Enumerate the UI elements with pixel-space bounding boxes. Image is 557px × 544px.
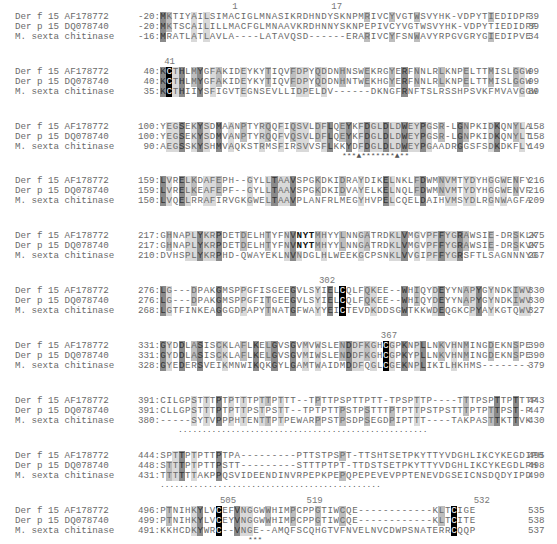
start-position: -16: [120, 32, 160, 42]
start-position: 150: [120, 196, 160, 206]
end-position: 327 [528, 306, 545, 316]
end-position: 209 [528, 196, 545, 206]
start-position: 35: [120, 87, 160, 97]
sequence-residues: LGTFINKEAGGGDPAPYTNATGFWAYYEICTEVDKDDSGW… [160, 306, 531, 316]
conservation-marks: ........................................… [178, 425, 428, 434]
end-position: 537 [528, 526, 545, 536]
end-position: 267 [528, 251, 545, 261]
conservation-marks: ........................................… [160, 480, 381, 489]
sequence-name: M. sexta chitinase [15, 251, 128, 261]
sequence-residues: MRATLATLAVLA----LATAVQSD------ERARIVCYFS… [160, 32, 531, 42]
sequence-name: M. sexta chitinase [15, 361, 128, 371]
start-position: 431: [120, 471, 160, 481]
start-position: 328: [120, 361, 160, 371]
end-position: 89 [528, 87, 539, 97]
sequence-name: M. sexta chitinase [15, 87, 128, 97]
end-position: 149 [528, 142, 545, 152]
sequence-name: M. sexta chitinase [15, 416, 128, 426]
end-position: 490 [528, 471, 545, 481]
start-position: 380: [120, 416, 160, 426]
sequence-residues: GYEDERSVEIKMNWIKQKGYLGAMTWAIDMDDFQGLCGEK… [160, 361, 531, 371]
end-position: 379 [528, 361, 545, 371]
start-position: 90: [120, 142, 160, 152]
start-position: 210: [120, 251, 160, 261]
sequence-name: M. sexta chitinase [15, 32, 128, 42]
end-position: 34 [528, 32, 539, 42]
conservation-marks: *** [248, 535, 262, 544]
start-position: 268: [120, 306, 160, 316]
sequence-name: M. sexta chitinase [15, 526, 128, 536]
sequence-residues: KKHCDKYWRC--VNGE--AMQFSCQHGTVFNVELNVCDWP… [160, 526, 476, 536]
sequence-residues: DVHSPLYKRPHD-QWAYEKLNVNDGLHLWEEKGCPSNKLV… [160, 251, 537, 261]
end-position: 430 [528, 416, 545, 426]
position-label: 532 [474, 496, 490, 506]
start-position: 491: [120, 526, 160, 536]
sequence-name: M. sexta chitinase [15, 306, 128, 316]
conservation-marks: ***▲*******▲** [342, 151, 409, 160]
sequence-name: M. sexta chitinase [15, 196, 128, 206]
sequence-name: M. sexta chitinase [15, 142, 128, 152]
sequence-residues: KCTHIIYSFIGVTEGNSEVLLIDPELDV------DKNGFR… [160, 87, 537, 97]
sequence-name: M. sexta chitinase [15, 471, 128, 481]
sequence-residues: LVQELRRAFIRVGKGWELTAAVPLANFRLMEGYHVPELCQ… [160, 196, 531, 206]
